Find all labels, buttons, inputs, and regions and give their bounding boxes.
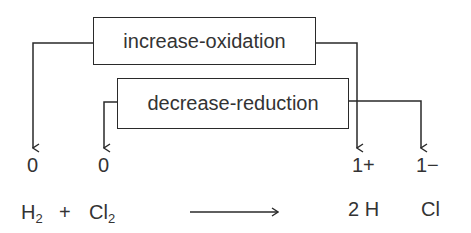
- oxidation-state-cl-product: 1−: [416, 155, 439, 175]
- oxidation-label: increase-oxidation: [123, 30, 285, 53]
- plus-sign: +: [59, 202, 71, 222]
- reactant-h2: H2: [21, 202, 43, 225]
- reduction-label: decrease-reduction: [147, 92, 318, 115]
- product-cl: Cl: [421, 199, 440, 219]
- redox-diagram: increase-oxidation decrease-reduction 0 …: [0, 0, 471, 233]
- oxidation-state-h2: 0: [27, 155, 38, 175]
- oxidation-state-h-product: 1+: [352, 155, 375, 175]
- reactant-cl2: Cl2: [89, 202, 115, 225]
- product-2h: 2 H: [348, 199, 379, 219]
- reduction-left-connector: [104, 102, 118, 148]
- oxidation-state-cl2: 0: [98, 155, 109, 175]
- reduction-right-connector: [349, 101, 421, 148]
- oxidation-left-connector: [33, 43, 93, 148]
- reduction-box: decrease-reduction: [117, 78, 349, 129]
- oxidation-box: increase-oxidation: [93, 17, 316, 65]
